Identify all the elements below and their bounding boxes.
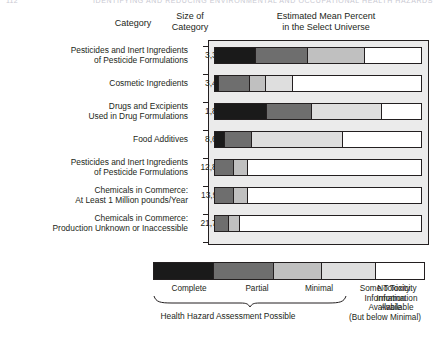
- row-label-line1: Chemicals in Commerce:: [6, 185, 188, 195]
- bar-segment-partial: [256, 48, 308, 63]
- bar-segment-minimal: [250, 76, 266, 91]
- row-category-label: Food Additives: [6, 134, 188, 144]
- bar-segment-no: [248, 160, 421, 175]
- legend-swatch: [213, 263, 272, 279]
- stacked-bar: [214, 187, 422, 204]
- legend-bracket-caption: Health Hazard Assessment Possible: [118, 311, 338, 321]
- row-label-line2: of Pesticide Formulations: [6, 55, 188, 65]
- legend-no-line2: Information: [360, 294, 434, 304]
- bar-segment-no: [293, 76, 421, 91]
- legend-swatch: [273, 263, 322, 279]
- bar-segment-partial: [225, 132, 252, 147]
- row-category-label: Pesticides and Inert Ingredientsof Pesti…: [6, 45, 188, 65]
- row-label-line1: Food Additives: [6, 134, 188, 144]
- row-category-label: Drugs and ExcipientsUsed in Drug Formula…: [6, 101, 188, 121]
- legend-swatch: [375, 263, 424, 279]
- stacked-bar: [214, 47, 422, 64]
- bar-segment-minimal: [229, 216, 239, 231]
- row-label-line1: Chemicals in Commerce:: [6, 213, 188, 223]
- legend-some-line4: (But below Minimal): [348, 313, 422, 323]
- bar-segment-partial: [215, 160, 234, 175]
- row-label-line2: Used in Drug Formulations: [6, 111, 188, 121]
- row-label-line1: Pesticides and Inert Ingredients: [6, 157, 188, 167]
- stacked-bar: [214, 215, 422, 232]
- legend-swatch: [321, 263, 375, 279]
- row-label-line2: At Least 1 Million pounds/Year: [6, 195, 188, 205]
- legend-label-partial: Partial: [226, 284, 288, 294]
- row-category-label: Pesticides and Inert Ingredientsof Pesti…: [6, 157, 188, 177]
- bar-segment-some: [312, 104, 382, 119]
- legend-label-minimal: Minimal: [288, 284, 350, 294]
- row-category-label: Chemicals in Commerce:Production Unknown…: [6, 213, 188, 233]
- bar-segment-minimal: [234, 188, 248, 203]
- row-category-label: Chemicals in Commerce:At Least 1 Million…: [6, 185, 188, 205]
- stacked-bar: [214, 75, 422, 92]
- bar-segment-no: [382, 104, 421, 119]
- bar-segment-partial: [267, 104, 312, 119]
- legend-label-complete: Complete: [152, 284, 226, 294]
- row-label-line2: of Pesticide Formulations: [6, 167, 188, 177]
- bar-segment-no: [248, 188, 421, 203]
- row-label-line2: Production Unknown or Inaccessible: [6, 223, 188, 233]
- row-category-label: Cosmetic Ingredients: [6, 78, 188, 88]
- legend-swatch-bar: [153, 262, 425, 280]
- row-label-line1: Pesticides and Inert Ingredients: [6, 45, 188, 55]
- row-label-line1: Drugs and Excipients: [6, 101, 188, 111]
- bar-segment-complete: [215, 48, 256, 63]
- bar-segment-minimal: [308, 48, 366, 63]
- bar-segment-partial: [215, 188, 234, 203]
- legend-no-line3: Available: [360, 303, 434, 313]
- health-hazard-bracket: [152, 294, 348, 308]
- bar-segment-partial: [219, 76, 250, 91]
- bar-segment-minimal: [234, 160, 248, 175]
- stacked-bar: [214, 131, 422, 148]
- bar-segment-partial: [215, 216, 229, 231]
- figure-page: 112 IDENTIFYING AND REDUCING ENVIRONMENT…: [0, 0, 439, 339]
- bar-segment-no: [365, 48, 421, 63]
- legend-label-no-toxicity-block: No Toxicity Information Available: [360, 284, 434, 313]
- bar-segment-no: [343, 132, 421, 147]
- bar-segment-complete: [215, 104, 267, 119]
- bar-segment-some: [252, 132, 343, 147]
- stacked-bar: [214, 159, 422, 176]
- row-label-line1: Cosmetic Ingredients: [6, 78, 188, 88]
- bar-segment-no: [240, 216, 421, 231]
- bar-segment-complete: [215, 132, 225, 147]
- legend-swatch: [154, 263, 213, 279]
- stacked-bar: [214, 103, 422, 120]
- legend-no-line1: No Toxicity: [360, 284, 434, 294]
- bar-segment-some: [266, 76, 293, 91]
